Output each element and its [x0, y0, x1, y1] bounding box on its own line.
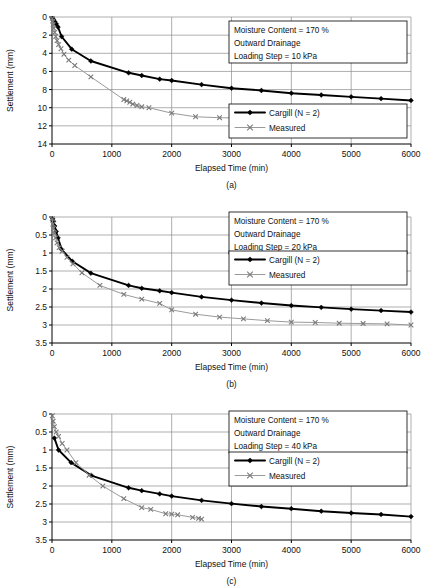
x-tick-label: 6000	[402, 149, 421, 159]
x-tick-label: 4000	[282, 149, 301, 159]
y-tick-label: 1.5	[35, 266, 47, 276]
annotation-line: Outward Drainage	[234, 230, 301, 239]
annotation-line: Outward Drainage	[234, 429, 301, 438]
y-tick-label: 3.5	[35, 338, 47, 348]
panel-label: (c)	[227, 576, 237, 586]
y-tick-label: 2.5	[35, 499, 47, 509]
chart-svg-b: 00.511.522.533.5010002000300040005000600…	[0, 195, 432, 390]
panel-label: (b)	[226, 379, 237, 389]
x-axis-title: Elapsed Time (min)	[195, 362, 268, 372]
y-tick-label: 0	[42, 212, 47, 222]
y-axis-title: Settlement (mm)	[5, 248, 15, 311]
y-axis-title: Settlement (mm)	[5, 445, 15, 508]
y-tick-label: 0.5	[35, 230, 47, 240]
legend-entry-label: Measured	[269, 124, 306, 133]
annotation-line: Moisture Content = 170 %	[234, 416, 329, 425]
y-tick-label: 1	[42, 248, 47, 258]
legend-entry-label: Cargill (N = 2)	[269, 256, 320, 265]
x-tick-label: 6000	[402, 348, 421, 358]
annotation-line: Loading Step = 20 kPa	[234, 243, 318, 252]
chart-panel-a: 024681012140100020003000400050006000Elap…	[0, 0, 432, 195]
x-tick-label: 6000	[402, 545, 421, 555]
x-tick-label: 3000	[222, 149, 241, 159]
y-tick-label: 0	[42, 12, 47, 22]
x-tick-label: 2000	[162, 149, 181, 159]
legend-entry-label: Measured	[269, 271, 306, 280]
y-tick-label: 10	[38, 103, 48, 113]
legend-entry-label: Measured	[269, 472, 306, 481]
y-tick-label: 3.5	[35, 535, 47, 545]
x-tick-label: 0	[50, 545, 55, 555]
x-tick-label: 5000	[342, 545, 361, 555]
y-tick-label: 3	[42, 517, 47, 527]
legend-entry-label: Cargill (N = 2)	[269, 457, 320, 466]
y-tick-label: 0	[42, 409, 47, 419]
y-tick-label: 8	[42, 85, 47, 95]
x-tick-label: 4000	[282, 545, 301, 555]
y-tick-label: 4	[42, 48, 47, 58]
y-tick-label: 2	[42, 284, 47, 294]
x-tick-label: 2000	[162, 545, 181, 555]
annotation-line: Moisture Content = 170 %	[234, 217, 329, 226]
annotation-line: Outward Drainage	[234, 39, 301, 48]
y-tick-label: 0.5	[35, 427, 47, 437]
x-tick-label: 0	[50, 348, 55, 358]
y-tick-label: 12	[38, 121, 48, 131]
y-tick-label: 2.5	[35, 302, 47, 312]
x-tick-label: 2000	[162, 348, 181, 358]
x-axis-title: Elapsed Time (min)	[195, 559, 268, 569]
y-axis-title: Settlement (mm)	[5, 49, 15, 112]
legend-entry-label: Cargill (N = 2)	[269, 109, 320, 118]
x-tick-label: 3000	[222, 545, 241, 555]
x-tick-label: 4000	[282, 348, 301, 358]
chart-panel-b: 00.511.522.533.5010002000300040005000600…	[0, 195, 432, 390]
x-tick-label: 0	[50, 149, 55, 159]
y-tick-label: 1	[42, 445, 47, 455]
annotation-line: Loading Step = 40 kPa	[234, 442, 318, 451]
y-tick-label: 6	[42, 66, 47, 76]
x-tick-label: 1000	[102, 348, 121, 358]
y-tick-label: 2	[42, 30, 47, 40]
x-tick-label: 5000	[342, 149, 361, 159]
y-tick-label: 14	[38, 139, 48, 149]
y-tick-label: 1.5	[35, 463, 47, 473]
x-axis-title: Elapsed Time (min)	[195, 163, 268, 173]
figure-settlement-vs-time: 024681012140100020003000400050006000Elap…	[0, 0, 432, 586]
x-tick-label: 1000	[102, 545, 121, 555]
y-tick-label: 2	[42, 481, 47, 491]
annotation-line: Loading Step = 10 kPa	[234, 52, 318, 61]
annotation-line: Moisture Content = 170 %	[234, 26, 329, 35]
chart-svg-a: 024681012140100020003000400050006000Elap…	[0, 0, 432, 195]
x-tick-label: 1000	[102, 149, 121, 159]
chart-panel-c: 00.511.522.533.5010002000300040005000600…	[0, 390, 432, 586]
y-tick-label: 3	[42, 320, 47, 330]
x-tick-label: 3000	[222, 348, 241, 358]
chart-svg-c: 00.511.522.533.5010002000300040005000600…	[0, 390, 432, 586]
panel-label: (a)	[226, 180, 237, 190]
x-tick-label: 5000	[342, 348, 361, 358]
